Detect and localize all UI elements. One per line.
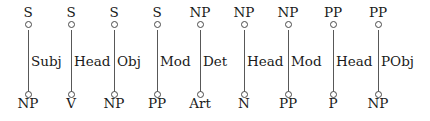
parent-category-label: PP — [324, 5, 342, 19]
child-category-label: PP — [279, 96, 297, 110]
child-category-label: P — [328, 96, 337, 110]
parent-node-circle — [241, 21, 248, 28]
child-category-label: V — [66, 96, 76, 110]
parent-node-circle — [375, 21, 382, 28]
relation-edge-line — [28, 30, 29, 93]
relation-edge-line — [114, 30, 115, 93]
syntax-relation-diagram: S Subj NP S Head V S Obj NP S Mod PP NP … — [0, 0, 430, 121]
parent-node-circle — [68, 21, 75, 28]
parent-node-circle — [154, 21, 161, 28]
parent-category-label: NP — [278, 5, 299, 19]
relation-label: Mod — [291, 54, 322, 69]
parent-category-label: S — [23, 5, 32, 19]
parent-category-label: S — [152, 5, 161, 19]
relation-edge-line — [378, 30, 379, 93]
parent-node-circle — [111, 21, 118, 28]
relation-edge-line — [288, 30, 289, 93]
relation-label: PObj — [381, 54, 414, 69]
parent-node-circle — [197, 21, 204, 28]
parent-node-circle — [285, 21, 292, 28]
parent-category-label: S — [66, 5, 75, 19]
child-category-label: N — [238, 96, 250, 110]
relation-edge-line — [71, 30, 72, 93]
relation-label: Subj — [31, 54, 62, 69]
parent-category-label: PP — [369, 5, 387, 19]
relation-edge-line — [333, 30, 334, 93]
child-category-label: NP — [368, 96, 389, 110]
parent-category-label: S — [109, 5, 118, 19]
parent-node-circle — [25, 21, 32, 28]
child-category-label: NP — [104, 96, 125, 110]
child-category-label: Art — [189, 96, 211, 110]
relation-label: Head — [247, 54, 283, 69]
parent-node-circle — [330, 21, 337, 28]
parent-category-label: NP — [234, 5, 255, 19]
child-category-label: NP — [18, 96, 39, 110]
relation-label: Head — [336, 54, 372, 69]
parent-category-label: NP — [190, 5, 211, 19]
relation-edge-line — [157, 30, 158, 93]
relation-edge-line — [200, 30, 201, 93]
relation-label: Mod — [160, 54, 191, 69]
relation-label: Head — [74, 54, 110, 69]
relation-label: Obj — [117, 54, 141, 69]
relation-edge-line — [244, 30, 245, 93]
relation-label: Det — [203, 54, 227, 69]
child-category-label: PP — [148, 96, 166, 110]
